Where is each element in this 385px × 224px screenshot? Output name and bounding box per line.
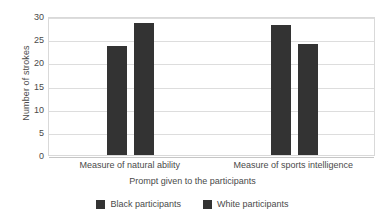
chart-legend: Black participantsWhite participants	[0, 199, 385, 209]
bar-chart: Number of strokes 051015202530 Measure o…	[0, 0, 385, 224]
bar	[134, 23, 154, 155]
legend-swatch-icon	[203, 200, 212, 209]
x-axis-title: Prompt given to the participants	[0, 176, 385, 186]
y-axis-tick-label: 25	[24, 36, 44, 45]
y-axis-tick-label: 0	[24, 152, 44, 161]
legend-label: Black participants	[110, 199, 181, 209]
y-axis-tick-labels: 051015202530	[24, 17, 44, 156]
x-axis-category-label: Measure of natural ability	[79, 159, 180, 172]
x-axis-category-labels: Measure of natural abilityMeasure of spo…	[48, 159, 375, 173]
plot-area	[48, 17, 375, 156]
legend-swatch-icon	[96, 200, 105, 209]
y-axis-tick-label: 20	[24, 59, 44, 68]
legend-label: White participants	[217, 199, 289, 209]
y-axis-tick-label: 30	[24, 13, 44, 22]
y-axis-tick-label: 15	[24, 82, 44, 91]
gridline	[49, 157, 374, 158]
bar	[271, 25, 291, 155]
y-axis-tick-label: 10	[24, 105, 44, 114]
bar	[107, 46, 127, 155]
bars-layer	[49, 18, 374, 155]
y-axis-tick-label: 5	[24, 128, 44, 137]
bar	[298, 44, 318, 155]
x-axis-category-label: Measure of sports intelligence	[233, 159, 353, 172]
legend-item: Black participants	[96, 199, 181, 209]
legend-item: White participants	[203, 199, 289, 209]
